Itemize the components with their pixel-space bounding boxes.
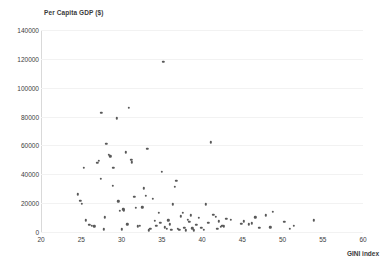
y-axis-ticks: 020000400006000080000100000120000140000 [0, 0, 39, 267]
grid-line [41, 117, 363, 118]
x-tick-label: 35 [158, 236, 165, 243]
x-tick-label: 55 [319, 236, 326, 243]
x-tick-label: 40 [198, 236, 205, 243]
grid-line [41, 145, 363, 146]
y-tick-label: 40000 [1, 171, 39, 178]
scatter-chart: Per Capita GDP ($) 020000400006000080000… [0, 0, 387, 267]
y-tick-label: 60000 [1, 142, 39, 149]
grid-line [41, 232, 363, 233]
x-tick-label: 25 [78, 236, 85, 243]
x-tick-label: 50 [279, 236, 286, 243]
grid-line [41, 88, 363, 89]
y-tick-label: 20000 [1, 200, 39, 207]
y-axis-title: Per Capita GDP ($) [44, 9, 103, 16]
x-tick-label: 45 [239, 236, 246, 243]
y-tick-label: 0 [1, 229, 39, 236]
grid-line [41, 59, 363, 60]
x-tick-label: 20 [37, 236, 44, 243]
grid-line [41, 203, 363, 204]
y-tick-label: 80000 [1, 113, 39, 120]
y-tick-label: 100000 [1, 84, 39, 91]
plot-area [41, 30, 363, 232]
y-tick-label: 120000 [1, 55, 39, 62]
grid-line [41, 30, 363, 31]
grid-line [41, 174, 363, 175]
x-tick-label: 60 [359, 236, 366, 243]
x-axis-title: GINI index [347, 250, 379, 257]
y-tick-label: 140000 [1, 27, 39, 34]
x-tick-label: 30 [118, 236, 125, 243]
